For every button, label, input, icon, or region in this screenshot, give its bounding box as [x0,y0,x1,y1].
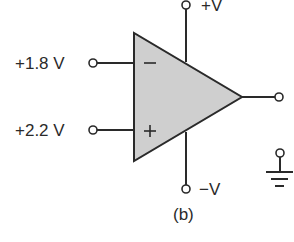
figure-caption: (b) [173,206,194,223]
inverting-input-voltage-label: +1.8 V [15,55,65,72]
inverting-input-terminal [89,59,97,67]
negative-supply-label: −V [199,181,220,198]
non-inverting-input-terminal [89,126,97,134]
positive-supply-label: +V [201,0,222,14]
positive-supply-terminal [182,1,190,9]
non-inverting-input-voltage-label: +2.2 V [15,122,65,139]
negative-supply-terminal [182,185,190,193]
output-terminal [275,93,283,101]
op-amp-triangle [134,33,242,161]
ground-terminal [276,149,284,157]
ground-icon [266,172,293,186]
